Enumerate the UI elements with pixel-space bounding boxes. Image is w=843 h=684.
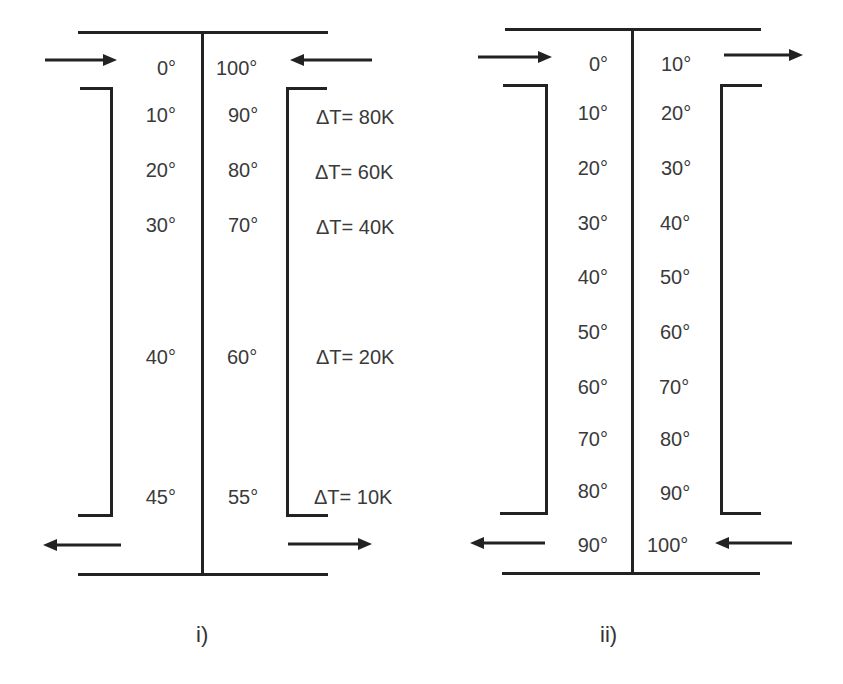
left-temp: 30° [110,213,176,237]
right-temp: 50° [660,265,690,289]
right-temp: 55° [228,485,258,509]
left-temp: 50° [546,320,608,344]
arrow-left-icon [290,52,372,68]
left-temp: 60° [546,375,608,399]
arrow-right-icon [478,49,552,65]
right-temp: 10° [661,52,691,76]
right-bracket-side [286,87,289,517]
left-temp: 10° [546,101,608,125]
caption-i: i) [196,622,208,648]
right-temp: 80° [660,427,690,451]
left-bracket-bottom [78,514,113,517]
left-temp: 10° [110,103,176,127]
delta-t-label: ΔT= 10K [314,485,392,509]
right-bracket-bottom [286,514,328,517]
delta-t-label: ΔT= 80K [316,105,394,129]
right-temp: 70° [659,375,689,399]
left-temp: 20° [546,156,608,180]
left-bracket-top [80,87,113,90]
delta-t-label: ΔT= 60K [315,160,393,184]
right-bracket-bottom [720,512,761,515]
left-temp: 40° [546,265,608,289]
right-temp: 90° [228,103,258,127]
delta-t-label: ΔT= 40K [316,215,394,239]
center-wall [631,29,634,573]
left-temp: 20° [110,158,176,182]
left-temp: 30° [546,211,608,235]
right-temp: 100° [647,533,688,557]
right-temp: 100° [216,56,257,80]
right-bracket-side [720,84,723,515]
left-temp: 45° [110,485,176,509]
arrow-right-icon [288,536,372,552]
left-temp: 70° [546,427,608,451]
right-temp: 20° [661,101,691,125]
right-temp: 70° [228,213,258,237]
arrow-left-icon [43,537,121,553]
arrow-left-icon [470,535,545,551]
left-temp: 80° [546,479,608,503]
center-wall [201,32,204,574]
left-temp: 0° [546,52,608,76]
right-temp: 60° [227,345,257,369]
arrow-right-icon [45,52,117,68]
right-bracket-top [721,84,762,87]
right-temp: 30° [661,156,691,180]
right-temp: 80° [228,158,258,182]
left-bracket-bottom [500,512,548,515]
left-temp: 90° [546,533,608,557]
right-temp: 40° [660,211,690,235]
right-bracket-top [287,87,327,90]
left-bracket-top [503,84,548,87]
arrow-right-icon [724,47,803,63]
left-bracket-side [110,87,113,517]
left-temp: 0° [110,56,176,80]
right-temp: 60° [660,320,690,344]
delta-t-label: ΔT= 20K [316,345,394,369]
arrow-left-icon [715,535,792,551]
caption-ii: ii) [600,622,617,648]
right-temp: 90° [660,481,690,505]
left-temp: 40° [110,345,176,369]
